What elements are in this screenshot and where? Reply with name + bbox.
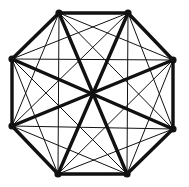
chord-edge [58,13,59,174]
chord-edge [59,13,173,129]
vertex-dot [54,170,61,177]
vertex-dot [169,125,176,132]
perimeter-edge [12,126,58,174]
perimeter-edge [127,129,173,174]
vertex-dot [55,9,62,16]
chord-edge [12,59,173,60]
complete-graph-k8 [0,0,189,187]
vertex-dot [169,56,176,63]
chord-edge [12,126,173,129]
vertex-dot [124,9,131,16]
chord-edge [12,13,128,126]
vertex-dot [8,122,15,129]
chord-edge [58,60,173,174]
chord-edge [12,59,127,174]
perimeter-edge [12,13,59,59]
perimeter-edge [128,13,173,60]
vertex-dot [8,55,15,62]
vertex-dot [123,170,130,177]
chord-edge [127,13,128,174]
